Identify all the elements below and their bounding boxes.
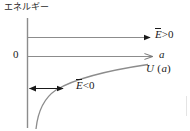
energy-diagram-figure: エネルギー 0 E>0 a U (a) E<0: [0, 0, 190, 131]
relation-positive: >0: [162, 28, 174, 40]
axis-title-energy: エネルギー: [4, 3, 49, 12]
relation-negative: <0: [83, 79, 95, 91]
label-energy-positive: E>0: [155, 29, 173, 40]
e-bar-glyph-negative: E: [76, 80, 83, 91]
zero-tick-label: 0: [13, 49, 19, 60]
u-glyph: U: [146, 62, 154, 74]
label-energy-negative: E<0: [76, 80, 94, 91]
label-potential-function: U (a): [146, 63, 171, 74]
label-axis-variable: a: [159, 49, 165, 60]
potential-curve: [36, 65, 148, 130]
e-bar-glyph: E: [155, 29, 162, 40]
